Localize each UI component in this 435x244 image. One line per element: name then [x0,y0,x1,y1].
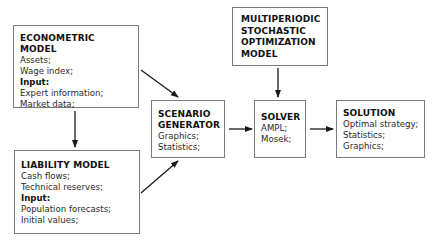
connector-arrows [0,0,435,244]
arrow-liability-to-scenario [141,161,178,193]
arrow-econometric-to-scenario [141,70,178,97]
